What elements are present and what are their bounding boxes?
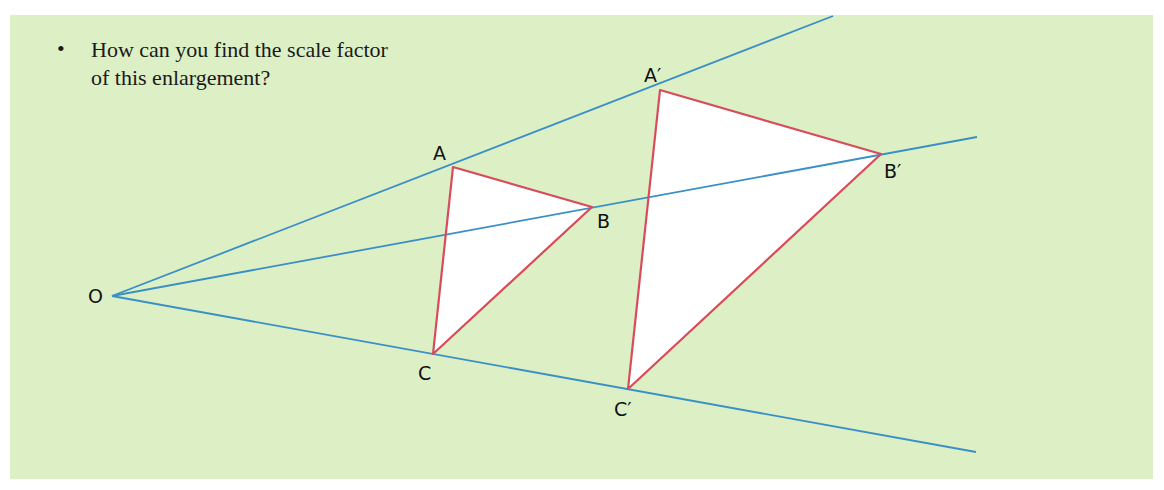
triangle-abc-fill [433, 167, 592, 354]
triangle-abc-prime-fill [628, 90, 881, 389]
label-a-prime: A′ [644, 64, 661, 86]
question-panel: • How can you find the scale factor of t… [10, 15, 1153, 479]
ray-oc [112, 296, 976, 452]
label-o: O [88, 285, 103, 307]
label-c-prime: C′ [614, 398, 632, 420]
label-b: B [597, 210, 610, 232]
label-b-prime: B′ [884, 160, 901, 182]
enlargement-diagram: O A B C A′ B′ C′ [10, 15, 1153, 479]
label-a: A [433, 142, 446, 164]
ray-ob [112, 137, 977, 296]
label-c: C [418, 362, 431, 384]
